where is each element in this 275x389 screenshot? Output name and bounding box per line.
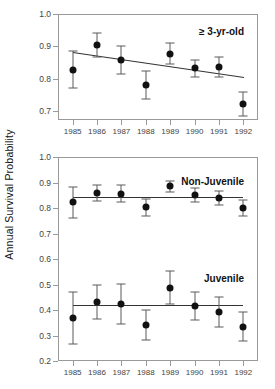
x-tick [170, 361, 171, 366]
error-bar-cap [141, 215, 150, 216]
error-bar-cap [166, 271, 175, 272]
error-bar-cap [239, 341, 248, 342]
error-bar-cap [190, 59, 199, 60]
panel-juvenile-nonjuvenile: 0.20.30.40.50.60.70.80.91.01985198619871… [58, 157, 258, 361]
y-tick [53, 46, 58, 47]
error-bar-cap [117, 323, 126, 324]
data-point [69, 199, 76, 206]
error-bar-cap [214, 326, 223, 327]
y-tick [53, 183, 58, 184]
panel-3yr-old: 0.70.80.91.01985198619871988198919901991… [58, 14, 258, 120]
data-point [94, 42, 101, 49]
error-bar-cap [214, 191, 223, 192]
y-tick [53, 285, 58, 286]
x-tick-label: 1989 [161, 368, 179, 377]
x-tick [219, 120, 220, 125]
data-point [167, 183, 174, 190]
error-bar-cap [93, 200, 102, 201]
error-bar-cap [68, 217, 77, 218]
y-tick-label: 1.0 [39, 152, 51, 162]
x-tick-label: 1987 [113, 127, 131, 136]
y-tick-label: 0.5 [39, 280, 51, 290]
data-point [240, 323, 247, 330]
data-point [118, 190, 125, 197]
error-bar-cap [93, 285, 102, 286]
error-bar-cap [93, 57, 102, 58]
series-label-non-juvenile: Non-Juvenile [181, 176, 244, 187]
y-tick [53, 361, 58, 362]
data-point [191, 302, 198, 309]
x-tick-label: 1988 [137, 127, 155, 136]
x-tick [121, 361, 122, 366]
error-bar-cap [141, 340, 150, 341]
y-tick-label: 1.0 [39, 9, 51, 19]
x-tick [146, 120, 147, 125]
y-tick-label: 0.9 [39, 178, 51, 188]
x-tick [146, 361, 147, 366]
data-point [142, 81, 149, 88]
data-point [167, 284, 174, 291]
y-tick-label: 0.6 [39, 254, 51, 264]
y-tick-label: 0.7 [39, 106, 51, 116]
error-bar-cap [239, 200, 248, 201]
y-tick-label: 0.8 [39, 203, 51, 213]
error-bar-cap [117, 185, 126, 186]
error-bar-cap [117, 74, 126, 75]
series-label-juvenile: Juvenile [204, 273, 244, 284]
data-point [94, 189, 101, 196]
y-tick [53, 157, 58, 158]
x-tick-label: 1986 [88, 368, 106, 377]
x-tick-label: 1991 [210, 368, 228, 377]
error-bar-cap [166, 64, 175, 65]
y-tick-label: 0.8 [39, 74, 51, 84]
error-bar-cap [166, 303, 175, 304]
error-bar-cap [190, 76, 199, 77]
x-tick [170, 120, 171, 125]
y-axis-title: Annual Survival Probability [0, 0, 18, 389]
x-tick [121, 120, 122, 125]
data-point [69, 66, 76, 73]
panel-bottom-frame [58, 157, 258, 361]
x-tick [73, 361, 74, 366]
data-point [215, 309, 222, 316]
error-bar-cap [214, 297, 223, 298]
error-bar-cap [166, 191, 175, 192]
error-bar-cap [214, 204, 223, 205]
error-bar-cap [68, 88, 77, 89]
x-tick [195, 361, 196, 366]
error-bar-cap [141, 70, 150, 71]
data-point [118, 300, 125, 307]
data-point [142, 204, 149, 211]
x-tick-label: 1985 [64, 127, 82, 136]
error-bar-cap [93, 318, 102, 319]
error-bar-cap [93, 33, 102, 34]
data-point [142, 322, 149, 329]
y-tick [53, 310, 58, 311]
y-tick-label: 0.2 [39, 356, 51, 366]
x-tick-label: 1990 [186, 368, 204, 377]
x-tick-label: 1985 [64, 368, 82, 377]
error-bar-cap [141, 98, 150, 99]
x-tick [97, 361, 98, 366]
y-tick [53, 234, 58, 235]
x-tick-label: 1986 [88, 127, 106, 136]
x-tick [195, 120, 196, 125]
error-bar-cap [190, 319, 199, 320]
x-tick-label: 1990 [186, 127, 204, 136]
error-bar-cap [190, 187, 199, 188]
data-point [191, 65, 198, 72]
y-tick [53, 208, 58, 209]
data-point [118, 57, 125, 64]
data-point [167, 50, 174, 57]
x-tick [243, 120, 244, 125]
x-tick [97, 120, 98, 125]
y-tick [53, 259, 58, 260]
error-bar-cap [239, 312, 248, 313]
error-bar-cap [239, 216, 248, 217]
x-tick [73, 120, 74, 125]
y-tick [53, 111, 58, 112]
x-tick-label: 1992 [234, 127, 252, 136]
error-bar-cap [239, 91, 248, 92]
survival-probability-figure: Annual Survival Probability 0.70.80.91.0… [0, 0, 275, 389]
data-point [215, 195, 222, 202]
